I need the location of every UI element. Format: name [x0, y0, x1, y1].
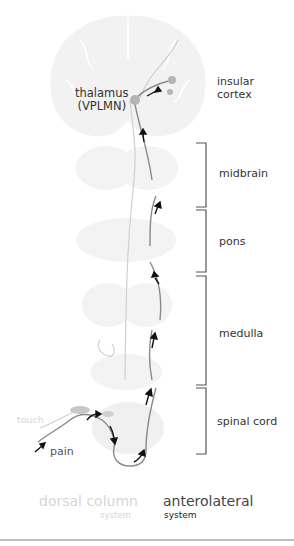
bracket-midbrain [196, 143, 206, 207]
insular-nucleus [168, 76, 176, 84]
region-label-midbrain: midbrain [219, 167, 268, 180]
pons-section [76, 218, 176, 262]
insular-cortex-label: insular cortex [217, 75, 254, 101]
thalamus-nucleus [130, 95, 140, 105]
region-label-spinal-cord: spinal cord [217, 415, 277, 428]
legend-dorsal-column-sub: system [100, 509, 131, 522]
bracket-spinal-cord [196, 388, 206, 454]
thalamus-label: thalamus (VPLMN) [75, 87, 129, 113]
region-label-medulla: medulla [219, 327, 263, 340]
midbrain-section [76, 146, 178, 190]
region-label-pons: pons [219, 235, 245, 248]
insular-label-line1: insular [217, 75, 254, 88]
thalamus-label-line2: (VPLMN) [75, 100, 129, 113]
touch-label: touch [17, 413, 44, 426]
bracket-pons [196, 210, 206, 272]
region-brackets [196, 143, 206, 454]
bracket-medulla [196, 276, 206, 385]
insular-label-line2: cortex [217, 88, 254, 101]
legend-dorsal-column-title: dorsal column [39, 493, 138, 509]
medulla-section [82, 283, 172, 390]
legend-anterolateral-title: anterolateral [163, 493, 253, 509]
pain-label: pain [50, 445, 74, 458]
legend-anterolateral-sub: system [164, 509, 197, 522]
bottom-divider [0, 539, 294, 541]
spinal-cord-section [92, 402, 164, 454]
